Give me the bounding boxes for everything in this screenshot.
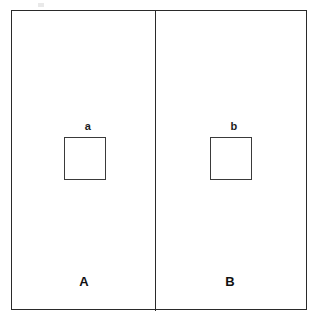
inner-square-b <box>210 137 252 180</box>
panel-a-label: A <box>69 275 99 288</box>
inner-square-a-label: a <box>78 121 98 132</box>
scan-artifact <box>38 3 44 7</box>
panel-divider-line <box>155 10 156 311</box>
panel-b-label: B <box>215 275 245 288</box>
inner-square-a <box>64 137 106 180</box>
figure-canvas: a b A B <box>0 0 321 322</box>
inner-square-b-label: b <box>224 121 244 132</box>
